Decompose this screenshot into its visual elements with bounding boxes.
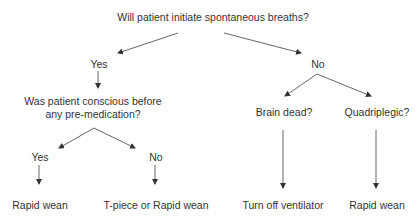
outcome-turn-off-ventilator: Turn off ventilator bbox=[242, 199, 323, 212]
root-question: Will patient initiate spontaneous breath… bbox=[117, 11, 308, 24]
edge-root-yes bbox=[118, 33, 178, 53]
edge-question-no bbox=[94, 128, 135, 148]
edge-root-no bbox=[224, 33, 301, 53]
conscious-yes-label: Yes bbox=[31, 151, 48, 164]
brain-dead-question: Brain dead? bbox=[256, 106, 313, 119]
conscious-question: Was patient conscious before any pre-med… bbox=[24, 95, 161, 121]
conscious-question-line2: any pre-medication? bbox=[24, 108, 161, 121]
outcome-tpiece-or-rapid-wean: T-piece or Rapid wean bbox=[103, 199, 208, 212]
outcome-rapid-wean-conscious: Rapid wean bbox=[12, 199, 67, 212]
outcome-rapid-wean-quadriplegic: Rapid wean bbox=[349, 199, 404, 212]
edge-no-braindead bbox=[285, 74, 317, 96]
yes-label: Yes bbox=[90, 58, 107, 71]
conscious-no-label: No bbox=[149, 151, 162, 164]
edge-question-yes bbox=[59, 128, 94, 148]
conscious-question-line1: Was patient conscious before bbox=[24, 95, 161, 108]
quadriplegic-question: Quadriplegic? bbox=[345, 106, 410, 119]
edge-no-quadriplegic bbox=[317, 74, 371, 96]
no-label: No bbox=[311, 58, 324, 71]
